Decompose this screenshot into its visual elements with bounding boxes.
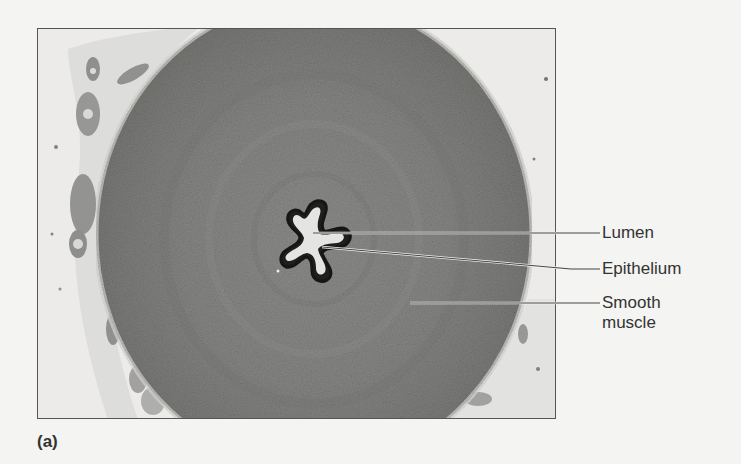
label-smooth-muscle: Smooth muscle	[602, 293, 692, 333]
micrograph-image	[38, 29, 556, 419]
label-smooth-line1: Smooth	[602, 293, 692, 313]
figure: Lumen Epithelium Smooth muscle (a)	[0, 0, 741, 464]
panel-letter: (a)	[37, 432, 58, 452]
micrograph	[37, 28, 556, 419]
label-epithelium: Epithelium	[602, 259, 681, 279]
label-lumen: Lumen	[602, 223, 654, 243]
label-smooth-line2: muscle	[602, 313, 692, 333]
